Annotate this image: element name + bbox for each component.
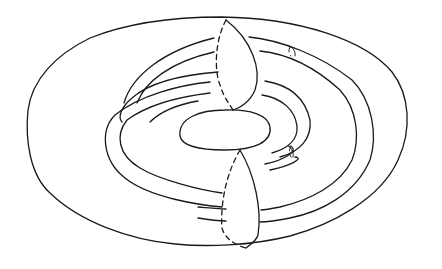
diagram-canvas [0, 0, 442, 269]
tube-outer-edge-b [137, 51, 356, 210]
tube-end-top-hidden [289, 47, 291, 56]
tube-inner-edge-a [105, 82, 222, 207]
meridian-disc-top-front [226, 20, 257, 110]
tube-outer-edge-a [124, 37, 373, 222]
right-band-a [265, 146, 293, 164]
meridian-disc-top-back [216, 20, 233, 110]
tube-right-inner-b [262, 95, 297, 153]
meridian-disc-bottom-front [240, 150, 259, 248]
meridian-disc-bottom-back [222, 150, 246, 248]
right-band-b [270, 157, 298, 170]
torus-knot-diagram [0, 0, 442, 269]
outer-torus-outline [27, 17, 407, 245]
inner-hole-outline [180, 110, 270, 150]
